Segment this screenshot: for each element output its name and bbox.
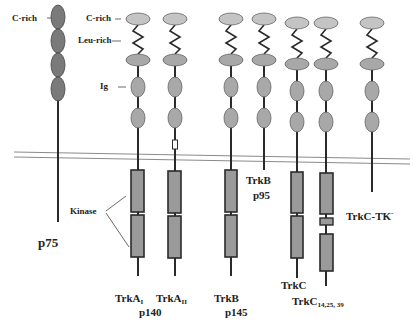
receptor-trkc-tk <box>360 17 384 192</box>
p75-label: p75 <box>38 236 58 249</box>
diagram-graphics <box>0 0 418 330</box>
trkc-14-label: TrkC14,25, 39 <box>292 296 344 309</box>
trka-p140-label: p140 <box>139 307 162 318</box>
cell-membrane <box>14 152 410 164</box>
receptor-trkb-p145 <box>219 13 243 276</box>
receptor-trkc-14-25-39 <box>314 17 338 286</box>
trka-i-label: TrkAI <box>115 293 143 306</box>
leu-rich-label: Leu-rich <box>78 36 112 45</box>
trkb-p145-label: p145 <box>225 307 248 318</box>
trkc-tk-name: TrkC-TK <box>346 210 391 222</box>
receptor-p75 <box>51 5 65 222</box>
c-rich-label: C-rich <box>86 14 111 23</box>
trkc-14-subscript: 14,25, 39 <box>317 301 343 309</box>
receptor-diagram: C-rich C-rich Leu-rich Ig Kinase p75 Trk… <box>0 0 418 330</box>
trkb-p95-name: TrkB <box>246 175 271 186</box>
trkc-tk-label: TrkC-TK- <box>346 210 393 222</box>
trkc-14-name: TrkC <box>292 295 317 307</box>
trkb-p95-label: p95 <box>253 190 270 201</box>
receptor-trka-ii <box>163 13 187 276</box>
c-rich-label-p75: C-rich <box>12 14 37 23</box>
trka-ii-name: TrkA <box>156 292 181 304</box>
kinase-label: Kinase <box>70 207 97 216</box>
ig-label: Ig <box>100 82 108 91</box>
receptor-trkc <box>285 17 309 278</box>
trka-i-name: TrkA <box>115 292 140 304</box>
trkc-tk-superscript: - <box>391 209 393 217</box>
trkc-label: TrkC <box>281 280 306 291</box>
receptor-trkb-p95 <box>252 13 276 170</box>
receptor-trka-i <box>126 13 150 276</box>
trka-i-subscript: I <box>140 298 143 306</box>
trka-ii-subscript: II <box>181 298 186 306</box>
trkb-label: TrkB <box>214 293 239 304</box>
trka-ii-label: TrkAII <box>156 293 187 306</box>
